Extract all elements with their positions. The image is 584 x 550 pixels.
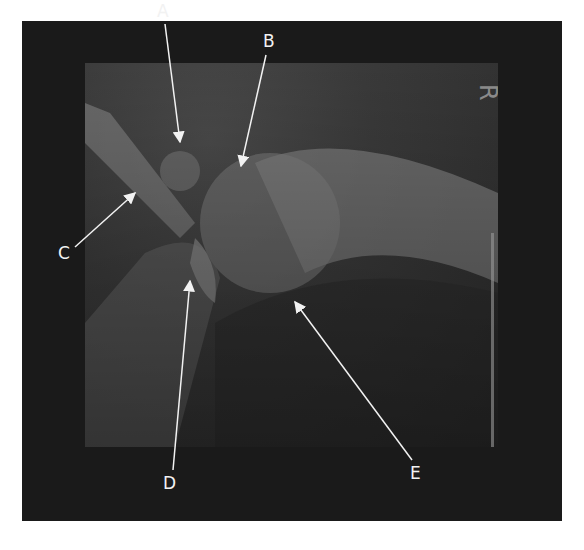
arrow-a <box>165 24 180 142</box>
label-c: C <box>58 245 70 262</box>
label-e: E <box>410 465 421 482</box>
arrow-c <box>75 193 135 247</box>
label-b: B <box>263 33 275 50</box>
arrow-b <box>241 55 266 166</box>
arrow-e <box>295 302 412 460</box>
label-a: A <box>157 3 169 20</box>
label-d: D <box>163 475 176 492</box>
arrow-d <box>173 281 190 470</box>
annotation-arrows <box>0 0 584 550</box>
